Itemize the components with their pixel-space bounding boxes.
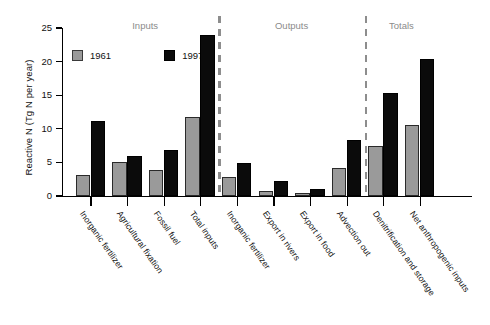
bar-1961-3 [185,117,200,196]
y-tick-label: 15 [22,89,52,100]
x-axis-label: Export in rivers [261,209,303,262]
y-tick-label: 20 [22,56,52,67]
x-tick-mark [164,197,165,206]
x-axis-baseline [62,196,472,197]
bar-1961-1 [112,162,127,196]
y-axis-label: Reactive N (Tg N per year) [23,28,34,208]
bar-1997-2 [164,150,179,196]
x-tick-mark [310,197,311,206]
x-axis-label: Advection out [334,209,372,258]
bar-1961-4 [222,177,237,196]
x-tick-mark [200,197,201,206]
x-tick-mark [237,197,238,206]
bar-1961-9 [405,125,420,196]
y-tick-label: 10 [22,123,52,134]
y-tick-label: 5 [22,156,52,167]
bar-1997-9 [420,59,435,196]
x-tick-mark [90,197,91,206]
y-tick-label: 25 [22,22,52,33]
bar-1997-0 [91,121,106,196]
group-divider [365,16,368,198]
y-tick-label: 0 [22,190,52,201]
reactive-nitrogen-bar-chart: Reactive N (Tg N per year) 0510152025 In… [0,0,490,325]
group-divider [218,16,221,198]
bar-1997-8 [383,93,398,196]
bar-1997-4 [237,163,252,196]
x-tick-mark [347,197,348,206]
bar-1997-3 [200,35,215,196]
plot-area [62,28,472,196]
bar-1961-8 [368,146,383,196]
x-tick-mark [273,197,274,206]
bar-1997-5 [274,181,289,196]
x-axis-label: Export in food [298,209,337,259]
x-tick-mark [127,197,128,206]
x-tick-mark [383,197,384,206]
bar-1997-7 [347,140,362,196]
x-axis-label: Total inputs [188,209,221,251]
bar-1961-7 [332,168,347,196]
bar-1997-1 [127,156,142,196]
x-tick-mark [420,197,421,206]
bar-1961-2 [149,170,164,196]
bar-1961-0 [76,175,91,197]
x-axis-label: Fossil fuel [151,209,182,247]
x-axis-label: Denitrification and storage [371,209,437,298]
